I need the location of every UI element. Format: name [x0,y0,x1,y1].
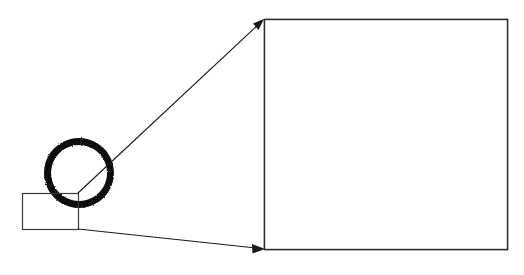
upper-leader-line [78,24,259,193]
detail-view-group [265,20,509,250]
figure-root: jagged staircase band of black pixels tr… [0,0,524,275]
leader-lines-group [78,19,265,254]
source-view-group [23,138,114,230]
diagram-canvas [0,0,524,275]
lower-leader-line [78,229,256,248]
roi-rectangle [23,194,79,230]
lower-leader-arrowhead [252,244,265,254]
detail-box-frame-overlay [265,20,508,250]
